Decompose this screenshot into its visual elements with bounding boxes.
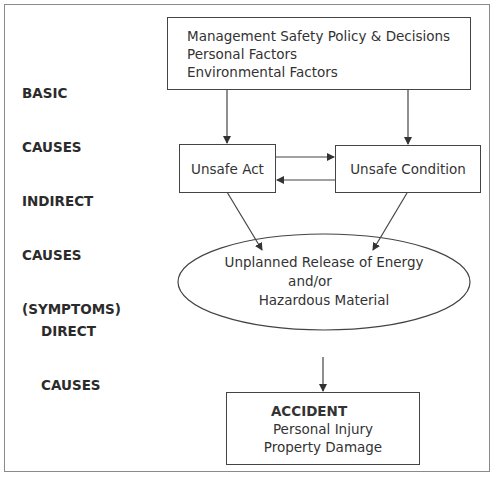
- accident-title: ACCIDENT: [199, 402, 419, 420]
- unsafe-act-label: Unsafe Act: [191, 160, 264, 178]
- unsafe-condition-label: Unsafe Condition: [350, 160, 466, 178]
- label-direct-causes: DIRECT CAUSES: [41, 286, 101, 412]
- direct-causes-text: Unplanned Release of Energy and/or Hazar…: [200, 253, 448, 310]
- accident-line-damage: Property Damage: [227, 438, 419, 456]
- basic-line-personal: Personal Factors: [187, 45, 297, 63]
- basic-line-management: Management Safety Policy & Decisions: [187, 27, 450, 45]
- accident-line-injury: Personal Injury: [227, 420, 419, 438]
- unsafe-act-box: Unsafe Act: [179, 144, 276, 193]
- unsafe-condition-box: Unsafe Condition: [335, 145, 481, 193]
- basic-causes-box: Management Safety Policy & Decisions Per…: [167, 17, 471, 90]
- basic-line-environmental: Environmental Factors: [187, 63, 338, 81]
- accident-box: ACCIDENT Personal Injury Property Damage: [226, 392, 420, 465]
